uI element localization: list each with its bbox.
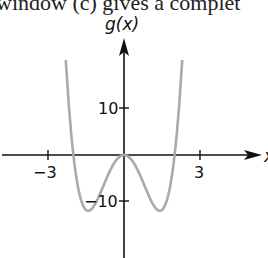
x-axis-label: x: [263, 146, 268, 166]
x-tick-label-3: 3: [194, 163, 204, 182]
graph-of-g: g(x) x −3 3 10 −10: [0, 0, 268, 258]
y-tick-label-10: 10: [98, 99, 118, 118]
y-axis-label: g(x): [105, 14, 139, 34]
y-tick-label-neg10: −10: [84, 192, 118, 211]
x-tick-label-neg3: −3: [33, 163, 57, 182]
